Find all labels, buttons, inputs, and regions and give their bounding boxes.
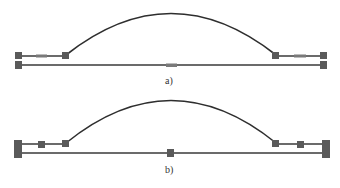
panel-a-right-support-bottom (320, 61, 327, 69)
panel-a-right-arch-node (272, 52, 279, 59)
structural-diagram: a) b) (0, 0, 340, 188)
panel-a-arch (66, 14, 276, 56)
panel-b-left-hanger-node (38, 141, 45, 148)
panel-a-label: a) (165, 75, 173, 87)
panel-a-left-hanger-bar (36, 55, 47, 58)
panel-b-center-node (167, 149, 174, 157)
panel-b-right-arch-node (272, 140, 279, 147)
panel-a-left-support-top (15, 52, 22, 59)
panel-b-left-support (14, 140, 22, 158)
panel-a-left-arch-node (62, 52, 69, 59)
panel-b: b) (14, 101, 330, 177)
panel-a-left-support-bottom (15, 61, 22, 69)
panel-b-arch (66, 101, 276, 144)
panel-a: a) (15, 14, 327, 88)
panel-b-right-hanger-node (297, 141, 304, 148)
panel-b-right-support (322, 140, 330, 158)
panel-b-left-arch-node (62, 140, 69, 147)
panel-a-right-hanger-bar (294, 55, 306, 58)
panel-a-right-support-top (320, 52, 327, 59)
panel-a-center-bar (166, 64, 177, 68)
panel-b-label: b) (165, 164, 173, 176)
